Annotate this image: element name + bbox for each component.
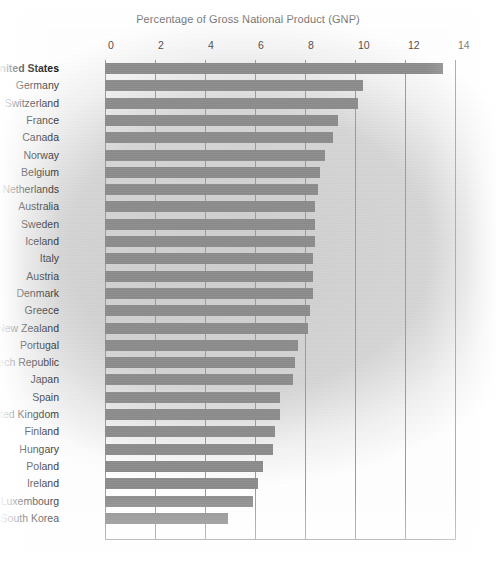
bar-row[interactable]: Hungary: [105, 441, 455, 458]
x-tick-label-6: 6: [255, 39, 264, 51]
category-label: Italy: [0, 250, 59, 267]
bar[interactable]: [105, 236, 315, 247]
bar-row[interactable]: Belgium: [105, 164, 455, 181]
bar-row[interactable]: Canada: [105, 129, 455, 146]
bar-row[interactable]: United States: [105, 60, 455, 77]
bar[interactable]: [105, 340, 298, 351]
bar-row[interactable]: Finland: [105, 423, 455, 440]
bar-row[interactable]: United Kingdom: [105, 406, 455, 423]
bar-row[interactable]: Austria: [105, 268, 455, 285]
category-label: Austria: [0, 268, 59, 285]
bar[interactable]: [105, 513, 228, 524]
bar-row[interactable]: Luxembourg: [105, 493, 455, 510]
x-tick-label-10: 10: [355, 39, 370, 51]
chart-title: Percentage of Gross National Product (GN…: [0, 13, 496, 25]
category-label: Denmark: [0, 285, 59, 302]
bar[interactable]: [105, 374, 293, 385]
bar-row[interactable]: Portugal: [105, 337, 455, 354]
bar-row[interactable]: Iceland: [105, 233, 455, 250]
category-label: Netherlands: [0, 181, 59, 198]
bar[interactable]: [105, 426, 275, 437]
gridline-14: [455, 60, 456, 540]
category-label: Norway: [0, 147, 59, 164]
category-label: Luxembourg: [0, 493, 59, 510]
bar[interactable]: [105, 496, 253, 507]
x-tick-label-8: 8: [305, 39, 314, 51]
category-label: Hungary: [0, 441, 59, 458]
category-label: Czech Republic: [0, 354, 59, 371]
bar-row[interactable]: Denmark: [105, 285, 455, 302]
bar[interactable]: [105, 288, 313, 299]
x-tick-label-12: 12: [405, 39, 420, 51]
category-label: Portugal: [0, 337, 59, 354]
bar-row[interactable]: Germany: [105, 77, 455, 94]
bar-row[interactable]: Greece: [105, 302, 455, 319]
bar[interactable]: [105, 253, 313, 264]
category-label: Finland: [0, 423, 59, 440]
bar-row[interactable]: South Korea: [105, 510, 455, 527]
category-label: Australia: [0, 198, 59, 215]
bar[interactable]: [105, 132, 333, 143]
category-label: Germany: [0, 77, 59, 94]
category-label: Canada: [0, 129, 59, 146]
category-label: Greece: [0, 302, 59, 319]
chart-page: Percentage of Gross National Product (GN…: [0, 0, 496, 566]
category-label: United Kingdom: [0, 406, 59, 423]
category-label: Switzerland: [0, 95, 59, 112]
bar[interactable]: [105, 167, 320, 178]
bar-row[interactable]: Sweden: [105, 216, 455, 233]
bar-row[interactable]: Japan: [105, 371, 455, 388]
bar-row[interactable]: Italy: [105, 250, 455, 267]
x-tick-label-14: 14: [455, 39, 470, 51]
bar[interactable]: [105, 63, 443, 74]
bar[interactable]: [105, 461, 263, 472]
bar[interactable]: [105, 98, 358, 109]
bar-row[interactable]: Ireland: [105, 475, 455, 492]
bar[interactable]: [105, 444, 273, 455]
bar-row[interactable]: Netherlands: [105, 181, 455, 198]
bar[interactable]: [105, 392, 280, 403]
category-label: Ireland: [0, 475, 59, 492]
x-tick-label-4: 4: [205, 39, 214, 51]
category-label: Spain: [0, 389, 59, 406]
x-tick-label-2: 2: [155, 39, 164, 51]
bar[interactable]: [105, 150, 325, 161]
bar[interactable]: [105, 305, 310, 316]
bar-row[interactable]: France: [105, 112, 455, 129]
bar[interactable]: [105, 201, 315, 212]
category-label: Iceland: [0, 233, 59, 250]
bar-row[interactable]: Poland: [105, 458, 455, 475]
x-axis-baseline: [105, 539, 456, 540]
category-label: United States: [0, 60, 59, 77]
bar-row[interactable]: Switzerland: [105, 95, 455, 112]
bar[interactable]: [105, 323, 308, 334]
bar[interactable]: [105, 357, 295, 368]
bar[interactable]: [105, 184, 318, 195]
category-label: Poland: [0, 458, 59, 475]
category-label: France: [0, 112, 59, 129]
bar[interactable]: [105, 409, 280, 420]
category-label: South Korea: [0, 510, 59, 527]
bar[interactable]: [105, 271, 313, 282]
bar-row[interactable]: Czech Republic: [105, 354, 455, 371]
bar[interactable]: [105, 80, 363, 91]
bar-row[interactable]: Norway: [105, 147, 455, 164]
bar[interactable]: [105, 115, 338, 126]
bar[interactable]: [105, 478, 258, 489]
category-label: Japan: [0, 371, 59, 388]
plot-area: 02468101214United StatesGermanySwitzerla…: [105, 60, 455, 540]
x-tick-label-0: 0: [105, 39, 114, 51]
category-label: New Zealand: [0, 320, 59, 337]
bar-row[interactable]: Australia: [105, 198, 455, 215]
bar-row[interactable]: Spain: [105, 389, 455, 406]
category-label: Belgium: [0, 164, 59, 181]
bar-row[interactable]: New Zealand: [105, 320, 455, 337]
bar[interactable]: [105, 219, 315, 230]
category-label: Sweden: [0, 216, 59, 233]
